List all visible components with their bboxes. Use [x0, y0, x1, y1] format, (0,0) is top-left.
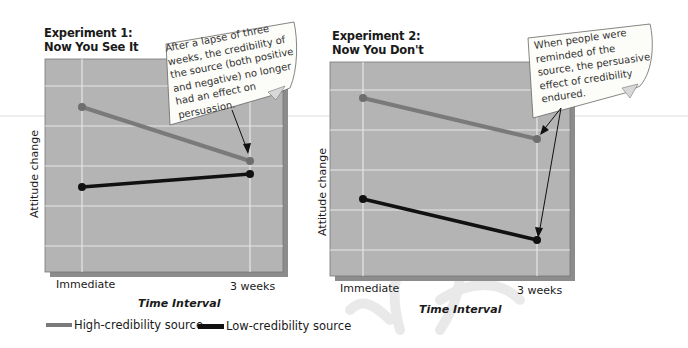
- chart-2-x-tick-3weeks: 3 weeks: [517, 284, 562, 297]
- chart-2-y-axis-label: Attitude change: [316, 148, 329, 236]
- chart-1-title: Experiment 1: Now You See It: [44, 26, 138, 54]
- chart-2-x-axis-label: Time Interval: [419, 303, 501, 316]
- chart-1-x-tick-immediate: Immediate: [56, 278, 115, 291]
- chart-2-x-tick-immediate: Immediate: [340, 282, 399, 295]
- chart-2-title: Experiment 2: Now You Don't: [332, 29, 424, 57]
- chart-1-x-axis-label: Time Interval: [138, 297, 220, 310]
- legend-item-high: High-credibility source: [46, 318, 203, 332]
- legend-item-low: Low-credibility source: [198, 319, 351, 333]
- legend-label-high: High-credibility source: [74, 318, 203, 332]
- chart-1-title-line-2: Now You See It: [44, 40, 138, 54]
- chart-1-title-line-1: Experiment 1:: [44, 26, 138, 40]
- chart-2-title-line-2: Now You Don't: [332, 43, 424, 57]
- legend-swatch-high: [46, 323, 72, 327]
- legend-label-low: Low-credibility source: [226, 319, 351, 333]
- chart-1-y-axis-label: Attitude change: [28, 130, 41, 218]
- legend-swatch-low: [198, 324, 224, 329]
- chart-2-title-line-1: Experiment 2:: [332, 29, 424, 43]
- chart-1-x-tick-3weeks: 3 weeks: [230, 280, 275, 293]
